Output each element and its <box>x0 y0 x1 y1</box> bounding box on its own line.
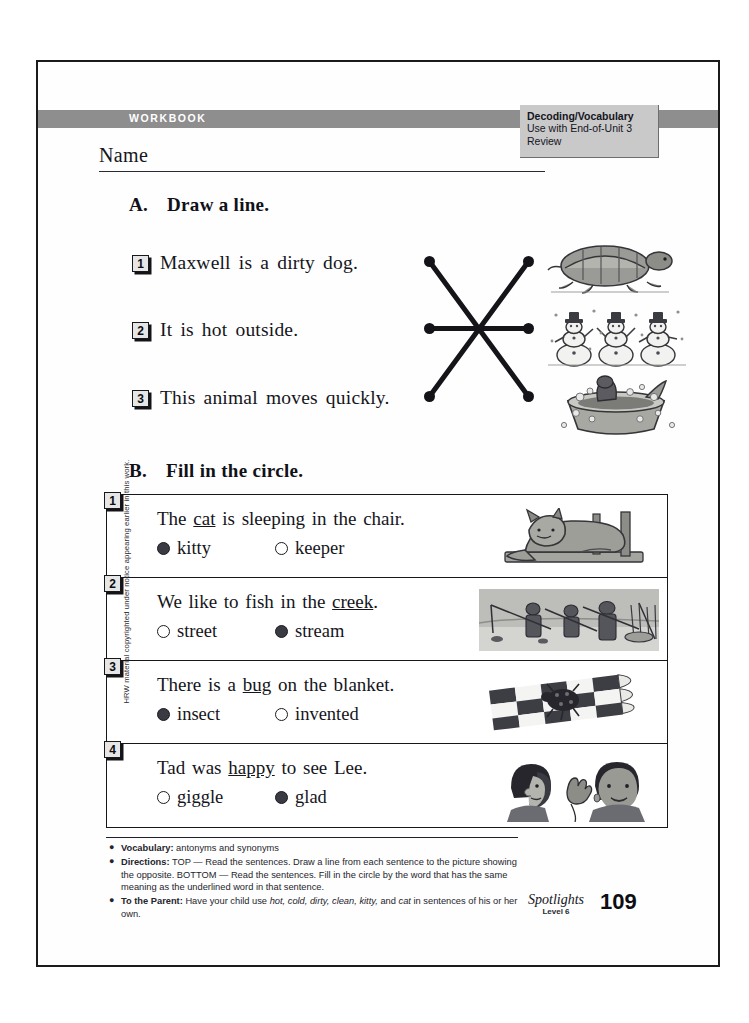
choice-bubble-icon[interactable] <box>157 625 170 638</box>
section-a-sentence: Maxwell is a dirty dog. <box>160 252 358 274</box>
choice-option[interactable]: kitty <box>157 538 275 559</box>
underlined-word: creek <box>332 591 373 612</box>
choice-label: stream <box>295 621 344 642</box>
underlined-word: cat <box>193 508 215 529</box>
parent-label: To the Parent: <box>121 896 183 906</box>
item-number-badge: 1 <box>132 255 149 272</box>
section-a-item-1: 1 Maxwell is a dirty dog. <box>132 252 358 274</box>
choice-bubble-icon[interactable] <box>275 708 288 721</box>
choice-bubble-icon[interactable] <box>157 708 170 721</box>
match-dot-left-3[interactable] <box>424 391 435 402</box>
choice-option[interactable]: insect <box>157 704 275 725</box>
choice-option[interactable]: glad <box>275 787 327 808</box>
match-dot-right-2[interactable] <box>523 323 534 334</box>
match-dot-left-2[interactable] <box>424 323 435 334</box>
name-write-line[interactable] <box>99 171 545 172</box>
section-b-choices: kitty keeper <box>157 538 472 559</box>
copyright-notice: HRW material copyrighted under notice ap… <box>122 432 131 732</box>
turtle-picture <box>543 240 677 296</box>
underlined-word: happy <box>228 757 274 778</box>
choice-label: street <box>177 621 217 642</box>
section-b-row-2: 2 We like to fish in the creek. street s… <box>107 578 667 661</box>
section-b-choices: street stream <box>157 621 472 642</box>
name-row: Name <box>99 144 545 167</box>
dog-bath-picture <box>546 375 686 437</box>
bullet-icon: ● <box>109 842 114 854</box>
choice-label: glad <box>295 787 327 808</box>
section-b-choices: giggle glad <box>157 787 472 808</box>
vocabulary-note: ● Vocabulary: antonyms and synonyms <box>108 842 526 854</box>
section-a-sentence: This animal moves quickly. <box>160 387 390 409</box>
choice-label: giggle <box>177 787 223 808</box>
bug-on-blanket-picture <box>479 673 659 731</box>
choice-label: keeper <box>295 538 344 559</box>
section-b-body: The cat is sleeping in the chair. kitty … <box>157 508 472 559</box>
choice-label: kitty <box>177 538 211 559</box>
decoding-line-1: Use with End-of-Unit 3 <box>527 122 652 134</box>
choice-bubble-icon[interactable] <box>275 625 288 638</box>
section-b-sentence: Tad was happy to see Lee. <box>157 757 472 779</box>
worksheet-page: WORKBOOK Decoding/Vocabulary Use with En… <box>36 60 720 967</box>
match-dot-right-3[interactable] <box>523 391 534 402</box>
sleeping-cat-picture <box>489 508 657 566</box>
section-b-sentence: We like to fish in the creek. <box>157 591 472 613</box>
section-b-row-4: 4 Tad was happy to see Lee. giggle glad <box>107 744 667 827</box>
section-b-letter: B. <box>129 460 147 481</box>
section-b-sentence: The cat is sleeping in the chair. <box>157 508 472 530</box>
directions-label: Directions: <box>121 857 170 867</box>
section-a-sentence: It is hot outside. <box>160 319 298 341</box>
snowmen-picture <box>546 305 688 369</box>
section-a-item-3: 3 This animal moves quickly. <box>132 387 390 409</box>
page-footer: Spotlights Level 6 109 <box>528 892 688 916</box>
choice-bubble-icon[interactable] <box>157 542 170 555</box>
section-b-choices: insect invented <box>157 704 472 725</box>
choice-option[interactable]: giggle <box>157 787 275 808</box>
children-fishing-picture <box>479 589 659 651</box>
section-b-sentence: There is a bug on the blanket. <box>157 674 472 696</box>
section-b-heading: B.Fill in the circle. <box>129 460 303 482</box>
directions-text: TOP — Read the sentences. Draw a line fr… <box>121 857 517 892</box>
decoding-line-2: Review <box>527 135 652 147</box>
name-label: Name <box>99 144 148 166</box>
section-b-table: 1 The cat is sleeping in the chair. kitt… <box>106 494 668 828</box>
footer-notes: ● Vocabulary: antonyms and synonyms ● Di… <box>108 842 526 922</box>
footer-divider <box>106 837 518 838</box>
section-a-heading: A.Draw a line. <box>129 194 269 216</box>
choice-option[interactable]: stream <box>275 621 344 642</box>
item-number-badge: 3 <box>132 390 149 407</box>
choice-bubble-icon[interactable] <box>275 542 288 555</box>
section-a-letter: A. <box>129 194 148 215</box>
choice-bubble-icon[interactable] <box>275 791 288 804</box>
series-level: Level 6 <box>528 907 584 916</box>
vocabulary-label: Vocabulary: <box>121 843 174 853</box>
workbook-label: WORKBOOK <box>129 112 207 124</box>
match-dot-right-1[interactable] <box>523 256 534 267</box>
choice-label: insect <box>177 704 220 725</box>
choice-option[interactable]: keeper <box>275 538 344 559</box>
item-number-badge: 2 <box>104 575 121 592</box>
parent-note: ● To the Parent: Have your child use hot… <box>108 895 526 920</box>
match-dot-left-1[interactable] <box>424 256 435 267</box>
item-number-badge: 4 <box>104 741 121 758</box>
choice-label: invented <box>295 704 359 725</box>
section-b-body: There is a bug on the blanket. insect in… <box>157 674 472 725</box>
item-number-badge: 3 <box>104 658 121 675</box>
section-a-title: Draw a line. <box>167 194 269 215</box>
bullet-icon: ● <box>109 856 114 868</box>
section-b-row-3: 3 There is a bug on the blanket. insect … <box>107 661 667 744</box>
section-a-item-2: 2 It is hot outside. <box>132 319 298 341</box>
section-b-body: Tad was happy to see Lee. giggle glad <box>157 757 472 808</box>
bullet-icon: ● <box>109 895 114 907</box>
series-name: Spotlights <box>528 892 584 908</box>
section-b-body: We like to fish in the creek. street str… <box>157 591 472 642</box>
choice-bubble-icon[interactable] <box>157 791 170 804</box>
underlined-word: bug <box>243 674 272 695</box>
item-number-badge: 1 <box>104 492 121 509</box>
choice-option[interactable]: street <box>157 621 275 642</box>
directions-note: ● Directions: TOP — Read the sentences. … <box>108 856 526 893</box>
item-number-badge: 2 <box>132 322 149 339</box>
section-b-title: Fill in the circle. <box>166 460 303 481</box>
choice-option[interactable]: invented <box>275 704 359 725</box>
page-number: 109 <box>600 892 637 913</box>
parent-words: hot, cold, dirty, clean, kitty, <box>270 896 378 906</box>
